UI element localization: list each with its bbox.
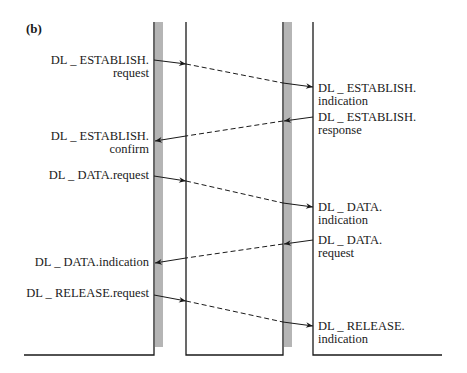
right-label-1-line2: indication — [318, 95, 416, 108]
left-label-4-line1: DL _ DATA.indication — [35, 256, 149, 269]
left-label-3-line1: DL _ DATA.request — [49, 169, 149, 182]
middle-channel-outline — [186, 22, 283, 355]
left-label-5-line1: DL _ RELEASE.request — [26, 287, 149, 300]
left-label-2-line2: confirm — [51, 143, 149, 156]
right-label-5-line2: indication — [318, 333, 405, 346]
left-label-1: DL _ ESTABLISH. request — [51, 54, 149, 80]
left-label-5: DL _ RELEASE.request — [26, 287, 149, 300]
right-label-2: DL _ ESTABLISH. response — [318, 111, 416, 137]
right-label-2-line2: response — [318, 124, 416, 137]
left-label-4: DL _ DATA.indication — [35, 256, 149, 269]
right-label-4: DL _ DATA. request — [318, 234, 382, 260]
right-label-5: DL _ RELEASE. indication — [318, 320, 405, 346]
left-label-1-line2: request — [51, 67, 149, 80]
left-gray-bar — [155, 22, 163, 347]
right-label-4-line2: request — [318, 247, 382, 260]
left-label-2: DL _ ESTABLISH. confirm — [51, 130, 149, 156]
right-label-3-line2: indication — [318, 214, 382, 227]
right-gray-bar — [284, 22, 292, 347]
right-label-3: DL _ DATA. indication — [318, 201, 382, 227]
right-label-1: DL _ ESTABLISH. indication — [318, 82, 416, 108]
left-label-3: DL _ DATA.request — [49, 169, 149, 182]
right-station-outline — [313, 22, 442, 355]
